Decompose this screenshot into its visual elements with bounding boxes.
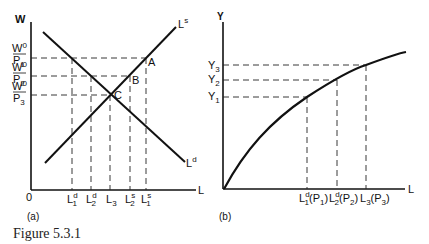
point-b: B [132,74,139,86]
panel-b: Y L Y3 Y2 Y1 Ld1(P1) Ld2(P2) L3(P3) (b) [208,11,414,222]
b-y-tick-y3: Y3 [208,59,220,74]
b-x-tick-3: L3(P3) [360,192,390,207]
panel-b-label: (b) [219,211,231,222]
svg-text:W0: W0 [12,79,27,92]
figure-caption: Figure 5.3.1 [13,226,81,241]
production-curve [224,52,406,189]
a-x-tick-l1d: Ld1 [67,191,78,208]
svg-text:W0: W0 [12,60,27,73]
point-a: A [148,56,156,68]
b-y-tick-y1: Y1 [208,90,220,105]
svg-text:P3: P3 [13,92,25,107]
a-x-tick-l2s: Ls2 [125,191,135,208]
a-y-axis-title: W [15,13,26,25]
b-y-axis-title: Y [217,11,224,22]
b-x-tick-2: Ld2(P2) [329,190,358,207]
a-x-tick-l1s: Ls1 [141,191,151,208]
a-x-tick-l3: L3 [106,193,117,208]
a-x-axis-title: L [198,184,204,196]
a-x-tick-l2d: Ld2 [86,191,97,208]
svg-text:W0: W0 [12,41,27,54]
supply-label: Ls [178,16,188,30]
point-c: C [114,89,122,101]
b-x-tick-1: Ld1(P1) [299,190,328,207]
a-y-tick-3: W0 P3 [12,79,27,107]
panel-a: Ls Ld A B C W L 0 W0 P1 W0 P2 W0 P3 Ld1 … [12,13,204,222]
panel-a-label: (a) [27,211,39,222]
demand-label: Ld [186,155,197,169]
figure: Ls Ld A B C W L 0 W0 P1 W0 P2 W0 P3 Ld1 … [0,0,429,244]
a-origin: 0 [26,191,32,203]
b-y-tick-y2: Y2 [208,73,220,88]
b-x-axis-title: L [408,183,414,195]
